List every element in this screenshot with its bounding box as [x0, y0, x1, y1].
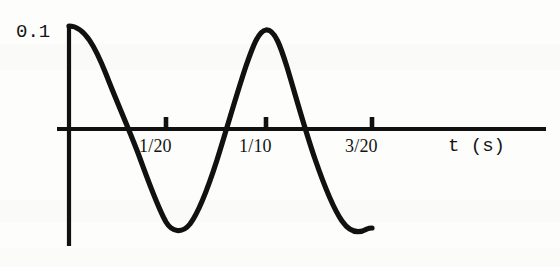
x-tick-label-3-20: 3/20: [345, 136, 378, 157]
figure-canvas: 0.1 1/20 1/10 3/20 t (s): [0, 0, 560, 267]
x-tick-label-1-10: 1/10: [239, 136, 272, 157]
x-tick-label-1-20: 1/20: [139, 136, 172, 157]
y-axis-value-label: 0.1: [16, 21, 50, 43]
waveform-plot: [0, 0, 560, 267]
x-axis-title-label: t (s): [448, 135, 505, 157]
